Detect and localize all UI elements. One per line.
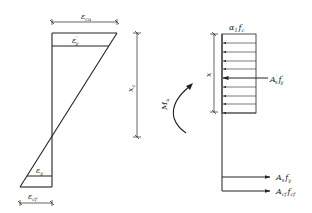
strain-stress-diagram: εcu ε′y εy εcf xc Mu	[0, 0, 312, 213]
tension-steel-force-label: Asfy	[275, 173, 291, 184]
tension-steel-strain-label: εy	[36, 166, 43, 177]
strain-profile-line	[20, 33, 117, 187]
frp-force-label: Acffcf	[275, 187, 296, 198]
ecu-label: εcu	[81, 12, 91, 22]
moment-arc	[173, 83, 193, 133]
compression-steel-strain-label: ε′y	[72, 35, 78, 47]
stress-diagram	[210, 32, 270, 191]
xc-label: xc	[126, 84, 136, 92]
concrete-stress-block	[222, 34, 256, 113]
compression-steel-force-label: A′sf′y	[269, 74, 284, 86]
ecf-label: εcf	[28, 192, 38, 203]
strain-diagram	[18, 19, 141, 206]
stress-block-label: α1fc	[229, 23, 245, 33]
moment-label: Mu	[160, 99, 170, 111]
x-label: x	[204, 72, 213, 77]
